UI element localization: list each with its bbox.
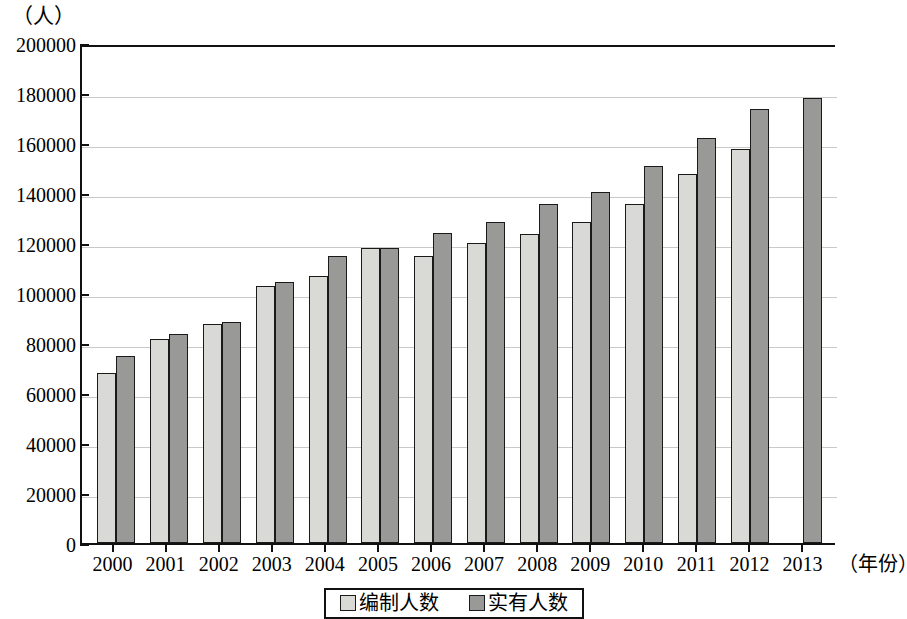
x-axis-tick-mark [801, 543, 803, 552]
bar-group [618, 47, 671, 543]
bar [644, 166, 663, 544]
x-axis-unit-label: （年份） [838, 553, 907, 575]
x-axis-tick-mark [218, 543, 220, 552]
x-axis-tick-label: 2006 [404, 553, 457, 575]
bar [433, 233, 452, 543]
y-axis-tick-label: 120000 [16, 235, 76, 255]
y-axis-tick-label: 140000 [16, 185, 76, 205]
bar [203, 324, 222, 543]
y-axis-tick-label: 100000 [16, 285, 76, 305]
y-axis-tick-mark [80, 44, 89, 46]
x-axis-tick-mark [112, 543, 114, 552]
bar [678, 174, 697, 543]
bar-group [723, 47, 776, 543]
x-axis-tick-label: 2012 [723, 553, 776, 575]
y-axis-tick-mark [80, 494, 89, 496]
x-axis-tick-label: 2001 [139, 553, 192, 575]
bar [750, 109, 769, 543]
x-axis-tick-mark [165, 543, 167, 552]
y-axis-tick-mark [80, 394, 89, 396]
bar [520, 234, 539, 543]
bar [380, 248, 399, 543]
bar [731, 149, 750, 543]
y-axis-tick-label: 20000 [26, 485, 76, 505]
bar [222, 322, 241, 543]
bar [97, 373, 116, 543]
x-axis-tick-label: 2009 [564, 553, 617, 575]
bar-chart: （人） 200000180000160000140000120000100000… [0, 0, 907, 619]
bar-group [90, 47, 143, 543]
x-axis-tick-label: 2008 [511, 553, 564, 575]
y-axis-tick-mark [80, 244, 89, 246]
bar-group [565, 47, 618, 543]
bar [169, 334, 188, 543]
bar [256, 286, 275, 544]
bar-group [512, 47, 565, 543]
x-axis-tick-mark [377, 543, 379, 552]
legend-label: 编制人数 [359, 593, 439, 613]
bar-group [248, 47, 301, 543]
x-axis-tick-label: 2013 [776, 553, 829, 575]
bar [275, 282, 294, 543]
y-axis-tick-label: 200000 [16, 35, 76, 55]
x-axis-tick-mark [324, 543, 326, 552]
x-axis-tick-label: 2011 [670, 553, 723, 575]
x-axis-tick-label: 2002 [192, 553, 245, 575]
y-axis-unit-label: （人） [12, 6, 75, 27]
x-axis-tick-mark [271, 543, 273, 552]
legend-label: 实有人数 [488, 593, 568, 613]
bar [361, 248, 380, 543]
bar [467, 243, 486, 543]
bar [539, 204, 558, 543]
x-axis-tick-mark [483, 543, 485, 552]
y-axis-tick-mark [80, 194, 89, 196]
bar-group [143, 47, 196, 543]
bar [414, 256, 433, 544]
bar [486, 222, 505, 543]
bar [116, 356, 135, 544]
y-axis-tick-mark [80, 94, 89, 96]
legend-item: 编制人数 [340, 593, 439, 613]
x-axis-tick-label: 2004 [298, 553, 351, 575]
y-axis-tick-label: 80000 [26, 335, 76, 355]
bar [328, 256, 347, 544]
legend-swatch-icon [469, 595, 485, 611]
legend-item: 实有人数 [469, 593, 568, 613]
bar-group [407, 47, 460, 543]
x-axis-tick-mark [748, 543, 750, 552]
x-axis-ticks [80, 543, 835, 553]
y-axis-tick-label: 40000 [26, 435, 76, 455]
y-axis-tick-mark [80, 344, 89, 346]
y-axis-tick-label: 0 [66, 535, 76, 555]
bar-group [301, 47, 354, 543]
x-axis-tick-label: 2000 [86, 553, 139, 575]
bar-group [671, 47, 724, 543]
bar-group [776, 47, 829, 543]
bar [572, 222, 591, 543]
y-axis-tick-label: 60000 [26, 385, 76, 405]
y-axis-tick-mark [80, 144, 89, 146]
y-axis-tick-mark [80, 294, 89, 296]
bar-group [459, 47, 512, 543]
bar [150, 339, 169, 543]
bar [697, 138, 716, 543]
x-axis-tick-mark [589, 543, 591, 552]
y-axis-tick-label: 180000 [16, 85, 76, 105]
bar [803, 98, 822, 543]
bar-groups [84, 47, 835, 543]
x-axis-tick-label: 2003 [245, 553, 298, 575]
x-axis-tick-mark [642, 543, 644, 552]
x-axis-tick-label: 2005 [351, 553, 404, 575]
y-axis-tick-labels: 2000001800001600001400001200001000008000… [0, 45, 76, 545]
legend-swatch-icon [340, 595, 356, 611]
bar [625, 204, 644, 543]
plot-area [80, 45, 835, 545]
bar-group [196, 47, 249, 543]
y-axis-tick-label: 160000 [16, 135, 76, 155]
bar-group [354, 47, 407, 543]
bar [309, 276, 328, 544]
x-axis-tick-mark [695, 543, 697, 552]
legend: 编制人数实有人数 [324, 588, 584, 619]
x-axis-tick-mark [536, 543, 538, 552]
y-axis-tick-mark [80, 444, 89, 446]
